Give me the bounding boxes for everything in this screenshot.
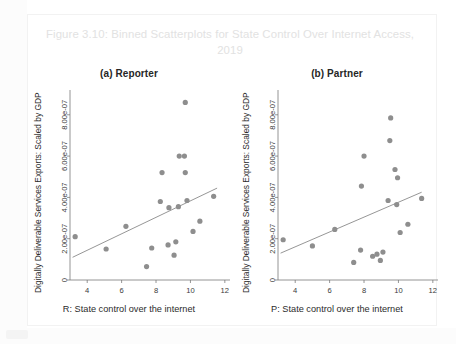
- svg-text:10: 10: [186, 286, 194, 295]
- panel-title-reporter: (a) Reporter: [24, 68, 234, 79]
- svg-text:6.00e-07: 6.00e-07: [60, 141, 69, 171]
- svg-text:2.00e-07: 2.00e-07: [268, 224, 277, 254]
- svg-text:4: 4: [85, 286, 89, 295]
- x-axis-title-partner: P: State control over the internet: [232, 304, 442, 314]
- svg-text:12: 12: [221, 286, 229, 295]
- svg-text:8.00e-07: 8.00e-07: [268, 100, 277, 130]
- panel-partner: (b) Partner 02.00e-074.00e-076.00e-078.0…: [232, 68, 442, 323]
- svg-text:6: 6: [119, 286, 123, 295]
- svg-text:6.00e-07: 6.00e-07: [268, 141, 277, 171]
- svg-text:0: 0: [268, 278, 277, 282]
- plot-area-partner: 02.00e-074.00e-076.00e-078.00e-074681012: [232, 84, 442, 309]
- svg-text:4.00e-07: 4.00e-07: [60, 182, 69, 212]
- svg-text:0: 0: [60, 278, 69, 282]
- page-scan-artifact: [6, 330, 28, 339]
- svg-text:2.00e-07: 2.00e-07: [60, 224, 69, 254]
- scatterplot-partner: 02.00e-074.00e-076.00e-078.00e-074681012: [232, 84, 442, 309]
- svg-text:8.00e-07: 8.00e-07: [60, 100, 69, 130]
- page-edge-left: [0, 0, 27, 344]
- svg-text:10: 10: [394, 286, 402, 295]
- x-axis-title-reporter: R: State control over the internet: [24, 304, 234, 314]
- svg-text:8: 8: [154, 286, 158, 295]
- figure-container: Figure 3.10: Binned Scatterplots for Sta…: [0, 0, 456, 344]
- svg-text:8: 8: [362, 286, 366, 295]
- panel-reporter: (a) Reporter 02.00e-074.00e-076.00e-078.…: [24, 68, 234, 323]
- svg-text:4: 4: [293, 286, 297, 295]
- figure-title: Figure 3.10: Binned Scatterplots for Sta…: [45, 26, 415, 58]
- svg-text:4.00e-07: 4.00e-07: [268, 182, 277, 212]
- svg-text:6: 6: [327, 286, 331, 295]
- panel-title-partner: (b) Partner: [232, 68, 442, 79]
- y-axis-title-reporter: Digitally Deliverable Services Exports: …: [33, 92, 43, 293]
- svg-text:12: 12: [429, 286, 437, 295]
- page-edge-bottom: [0, 328, 456, 344]
- plot-area-reporter: 02.00e-074.00e-076.00e-078.00e-074681012: [24, 84, 234, 309]
- y-axis-title-partner: Digitally Deliverable Services Exports: …: [241, 92, 251, 293]
- scatterplot-reporter: 02.00e-074.00e-076.00e-078.00e-074681012: [24, 84, 234, 309]
